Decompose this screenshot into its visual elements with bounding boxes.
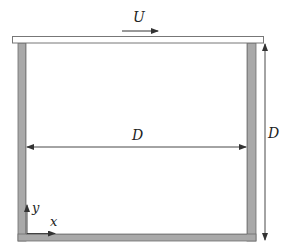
- cavity-diagram: U D D y x: [0, 0, 291, 250]
- right-wall: [247, 43, 256, 241]
- x-axis-label: x: [50, 214, 58, 229]
- y-axis-label: y: [31, 200, 40, 215]
- lid-velocity-label: U: [133, 9, 146, 25]
- width-label: D: [131, 127, 143, 143]
- height-label: D: [267, 125, 279, 141]
- moving-lid: [13, 37, 264, 44]
- bottom-wall: [18, 234, 256, 241]
- left-wall: [18, 43, 26, 241]
